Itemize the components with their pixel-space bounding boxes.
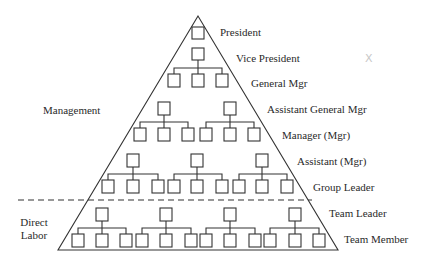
label-group-leader: Group Leader [313, 181, 374, 193]
section-management: Management [43, 104, 100, 117]
box-assistant-2 [191, 154, 203, 167]
label-assistant-general-mgr: Assistant General Mgr [267, 103, 367, 115]
box-assistant-1 [127, 154, 139, 167]
label-team-member: Team Member [344, 233, 408, 245]
box-agm-1 [158, 102, 170, 115]
label-vice-president: Vice President [236, 52, 300, 64]
general-mgr-row [168, 74, 228, 87]
box-team-leader-1 [96, 208, 108, 221]
connector-agm [140, 115, 254, 128]
connector-assistant [108, 167, 287, 180]
box-president [192, 27, 204, 39]
box-team-leader-2 [160, 208, 172, 221]
box-agm-2 [224, 102, 236, 115]
box-team-leader-4 [289, 208, 301, 221]
team-member-row [72, 234, 325, 247]
label-assistant-mgr: Assistant (Mgr) [297, 155, 366, 167]
section-direct-labor-line1: Direct [18, 216, 50, 229]
manager-row [134, 128, 260, 141]
section-direct-labor: Direct Labor [18, 216, 50, 242]
org-pyramid-diagram [0, 0, 424, 264]
box-vice-president [192, 48, 204, 60]
section-direct-labor-line2: Labor [18, 229, 50, 242]
label-manager: Manager (Mgr) [282, 129, 350, 141]
group-leader-row [102, 180, 293, 193]
connector-vp [174, 60, 222, 74]
label-general-mgr: General Mgr [251, 77, 308, 89]
box-assistant-3 [256, 154, 268, 167]
label-team-leader: Team Leader [329, 207, 387, 219]
stray-x-mark: X [365, 52, 373, 65]
label-president: President [220, 26, 261, 38]
connector-team-leader [78, 221, 319, 234]
box-team-leader-3 [224, 208, 236, 221]
